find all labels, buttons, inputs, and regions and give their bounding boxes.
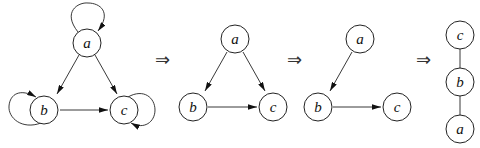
node-b: b [446,68,474,96]
node-label: b [314,99,322,115]
node-label: c [457,27,464,43]
node-b: b [179,93,207,121]
node-c: c [259,93,287,121]
implies-arrow-3: ⇒ [416,49,431,70]
graph-4-hasse-diagram: c b a [446,21,474,143]
node-label: b [456,74,464,90]
graph-reduction-diagram: a b c ⇒ a b c ⇒ [0,0,480,148]
node-label: a [356,31,364,47]
edge-a-c [95,55,117,94]
node-c: c [110,96,138,124]
self-loop-a [71,3,104,32]
edge-a-b [57,55,79,94]
edge-a-b [330,52,352,91]
node-label: a [456,121,464,137]
node-c: c [446,21,474,49]
edge-a-c [243,52,265,91]
node-label: a [231,31,239,47]
node-a: a [221,25,249,53]
node-a: a [73,29,101,57]
node-label: b [189,99,197,115]
node-label: c [270,99,277,115]
node-a: a [446,115,474,143]
node-label: b [40,102,48,118]
node-label: c [394,99,401,115]
node-label: c [121,102,128,118]
node-label: a [83,35,91,51]
node-a: a [346,25,374,53]
node-b: b [304,93,332,121]
node-c: c [383,93,411,121]
graph-3-transitive-reduction: a b c [304,25,411,121]
graph-2-no-self-loops: a b c [179,25,287,121]
implies-arrow-1: ⇒ [155,49,170,70]
node-b: b [30,96,58,124]
graph-1-with-self-loops: a b c [9,3,155,126]
implies-arrow-2: ⇒ [287,49,302,70]
edge-a-b [205,52,227,91]
